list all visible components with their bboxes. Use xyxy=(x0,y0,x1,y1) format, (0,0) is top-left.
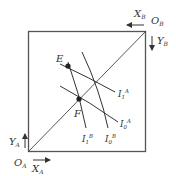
y-a-label: YA xyxy=(9,136,21,148)
curve-I1B-label: I1B xyxy=(81,133,93,145)
curve-I0A-label: I0A xyxy=(119,118,131,130)
indifference-curve-I0A xyxy=(60,86,118,122)
y-b-label: YB xyxy=(157,35,169,47)
point-E-dot xyxy=(65,63,70,68)
x-a-label: XA xyxy=(31,163,44,175)
curve-I0B-label: I0B xyxy=(104,133,116,145)
curve-I1A-label: I1A xyxy=(117,88,129,100)
edgeworth-box-diagram: OA XA YA OB XB YB E F I1A I0A I1B I0B xyxy=(0,0,176,176)
indifference-curve-I0B xyxy=(82,52,108,128)
point-F-dot xyxy=(76,96,81,101)
point-E-label: E xyxy=(55,53,64,64)
diagram-canvas: OA XA YA OB XB YB E F I1A I0A I1B I0B xyxy=(0,0,176,176)
origin-a-label: OA xyxy=(14,157,27,169)
origin-b-label: OB xyxy=(151,15,164,27)
x-b-label: XB xyxy=(133,8,146,20)
point-F-label: F xyxy=(73,108,82,119)
